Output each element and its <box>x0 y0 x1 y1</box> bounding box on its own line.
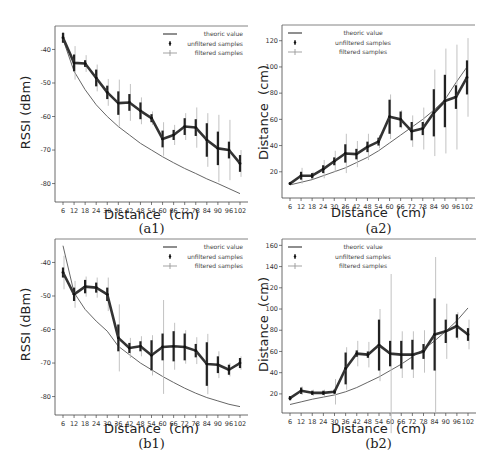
legend-dot-icon <box>294 255 296 257</box>
unfiltered-sample-marker <box>239 162 242 165</box>
unfiltered-sample-marker <box>172 134 175 137</box>
figure-caption: (b1) <box>55 436 248 451</box>
y-tick-label: 20 <box>270 390 278 398</box>
y-tick-label: -40 <box>40 259 51 267</box>
unfiltered-sample-marker <box>411 353 414 356</box>
y-tick-label: 100 <box>266 305 278 313</box>
unfiltered-sample-marker <box>344 152 347 155</box>
unfiltered-sample-marker <box>139 109 142 112</box>
unfiltered-sample-marker <box>389 352 392 355</box>
legend-filtered-samples: filtered samples <box>339 262 387 270</box>
unfiltered-sample-marker <box>455 325 458 328</box>
figure-caption: (a2) <box>282 221 475 236</box>
unfiltered-sample-marker <box>172 345 175 348</box>
unfiltered-sample-marker <box>355 352 358 355</box>
legend-theoric-value: theoric value <box>204 30 244 37</box>
legend-unfiltered-samples: unfiltered samples <box>187 253 243 261</box>
unfiltered-sample-marker <box>228 368 231 371</box>
filtered-samples-line <box>63 38 240 164</box>
unfiltered-sample-marker <box>117 336 120 339</box>
unfiltered-sample-marker <box>377 140 380 143</box>
x-axis-label: Distance (cm) <box>55 421 248 436</box>
chart-b1: RSSI (dBm) -40-50-60-70-8061218243036424… <box>0 237 250 475</box>
legend-unfiltered-samples: unfiltered samples <box>335 253 391 261</box>
plot-area: 2040608010012061218243036424854606672788… <box>250 0 501 210</box>
unfiltered-sample-marker <box>73 61 76 64</box>
y-tick-label: -40 <box>40 46 51 54</box>
unfiltered-sample-marker <box>366 353 369 356</box>
unfiltered-sample-marker <box>216 363 219 366</box>
y-tick-label: 100 <box>266 63 278 71</box>
x-axis-label: Distance (cm) <box>282 205 475 220</box>
unfiltered-sample-marker <box>378 344 381 347</box>
legend-filtered-samples: filtered samples <box>339 48 387 56</box>
y-tick-label: -70 <box>40 146 51 154</box>
unfiltered-sample-marker <box>400 353 403 356</box>
figure-caption: (a1) <box>55 221 248 236</box>
unfiltered-sample-marker <box>228 149 231 152</box>
y-tick-label: -80 <box>40 180 51 188</box>
unfiltered-sample-marker <box>289 182 292 185</box>
unfiltered-sample-marker <box>422 350 425 353</box>
unfiltered-sample-marker <box>194 126 197 129</box>
legend: theoric valueunfiltered samplesfiltered … <box>163 243 243 270</box>
y-tick-label: 120 <box>266 37 278 45</box>
legend-dot-icon <box>169 255 171 257</box>
unfiltered-sample-marker <box>432 111 435 114</box>
y-tick-label: 20 <box>270 168 278 176</box>
y-tick-label: 140 <box>266 263 278 271</box>
legend-dot-icon <box>294 41 296 43</box>
plot-area: 2040608010012014016061218243036424854606… <box>250 237 501 427</box>
legend-dot-icon <box>169 42 171 44</box>
unfiltered-sample-marker <box>333 160 336 163</box>
unfiltered-sample-marker <box>311 174 314 177</box>
unfiltered-sample-marker <box>106 91 109 94</box>
unfiltered-sample-marker <box>62 36 65 39</box>
x-axis-label: Distance (cm) <box>55 207 248 222</box>
y-tick-label: 80 <box>270 89 278 97</box>
unfiltered-sample-marker <box>128 101 131 104</box>
legend: theoric valueunfiltered samplesfiltered … <box>163 30 243 57</box>
unfiltered-sample-marker <box>443 100 446 103</box>
unfiltered-sample-marker <box>300 389 303 392</box>
unfiltered-sample-marker <box>366 145 369 148</box>
unfiltered-sample-marker <box>139 345 142 348</box>
chart-b2: Distance (cm) 20406080100120140160612182… <box>250 237 501 475</box>
plot-area: -40-50-60-70-806121824303642485460667278… <box>0 0 250 210</box>
unfiltered-sample-marker <box>62 271 65 274</box>
unfiltered-sample-marker <box>150 354 153 357</box>
unfiltered-sample-marker <box>322 391 325 394</box>
unfiltered-sample-marker <box>433 333 436 336</box>
unfiltered-sample-marker <box>333 390 336 393</box>
legend-theoric-value: theoric value <box>343 29 383 36</box>
legend-theoric-value: theoric value <box>343 243 383 250</box>
y-tick-label: -80 <box>40 393 51 401</box>
unfiltered-sample-marker <box>194 349 197 352</box>
y-tick-label: -50 <box>40 292 51 300</box>
unfiltered-sample-marker <box>183 346 186 349</box>
chart-a1: RSSI (dBm) -40-50-60-70-8061218243036424… <box>0 0 250 237</box>
unfiltered-sample-marker <box>183 125 186 128</box>
y-tick-label: -60 <box>40 326 51 334</box>
unfiltered-sample-marker <box>399 118 402 121</box>
legend-filtered-samples: filtered samples <box>195 262 243 270</box>
unfiltered-sample-marker <box>150 117 153 120</box>
y-tick-label: -60 <box>40 113 51 121</box>
y-tick-label: 60 <box>270 116 278 124</box>
chart-a2: Distance (cm) 20406080100120612182430364… <box>250 0 501 237</box>
unfiltered-sample-marker <box>455 96 458 99</box>
figure-caption: (b2) <box>282 436 475 451</box>
unfiltered-sample-marker <box>205 139 208 142</box>
unfiltered-sample-marker <box>344 367 347 370</box>
theoric-value-line <box>290 67 467 185</box>
y-tick-label: -70 <box>40 359 51 367</box>
y-tick-label: 80 <box>270 326 278 334</box>
filtered-samples-line <box>290 77 467 183</box>
unfiltered-sample-marker <box>106 293 109 296</box>
unfiltered-sample-marker <box>322 168 325 171</box>
legend-filtered-samples: filtered samples <box>195 49 243 57</box>
unfiltered-sample-marker <box>95 77 98 80</box>
unfiltered-sample-marker <box>466 76 469 79</box>
y-tick-label: 40 <box>270 369 278 377</box>
y-tick-label: 40 <box>270 142 278 150</box>
